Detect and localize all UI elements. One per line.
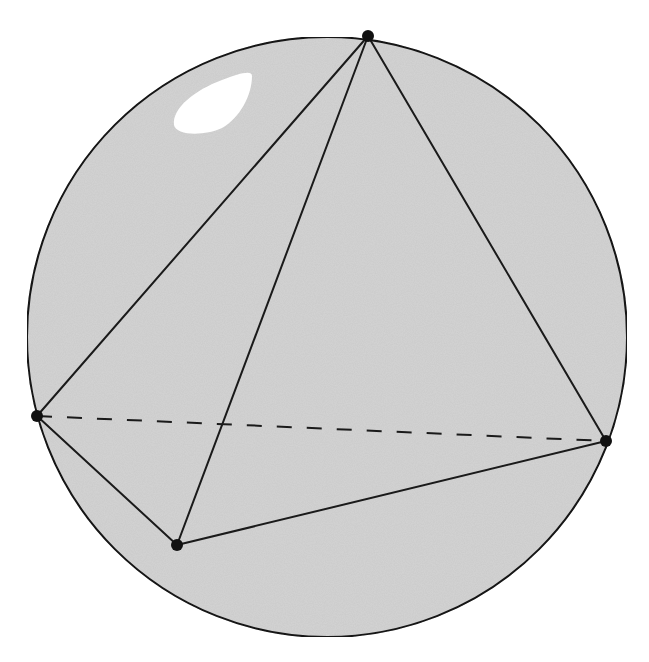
sphere-tetrahedron-diagram bbox=[0, 0, 649, 662]
vertex-right-point bbox=[600, 435, 612, 447]
vertex-top-point bbox=[362, 30, 374, 42]
sphere bbox=[27, 37, 627, 637]
vertex-bottom-front-point bbox=[171, 539, 183, 551]
vertex-left-point bbox=[31, 410, 43, 422]
